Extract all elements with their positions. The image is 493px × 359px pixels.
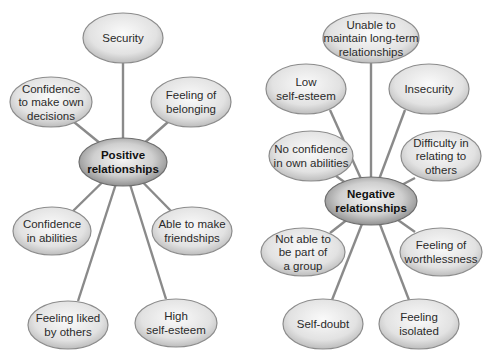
node-label-line: in abilities — [27, 232, 78, 244]
concept-node-high-self-esteem: Highself-esteem — [135, 299, 217, 347]
node-label-line: decisions — [27, 110, 75, 122]
concept-node-feeling-of-belonging: Feeling ofbelonging — [151, 77, 231, 127]
concept-node-confidence-in-abilities: Confidencein abilities — [13, 207, 91, 255]
node-label-line: relationships — [335, 202, 407, 214]
concept-node-feeling-liked-by-others: Feeling likedby others — [28, 301, 108, 349]
node-label-line: friendships — [164, 232, 220, 244]
node-label-line: Self-doubt — [297, 318, 350, 330]
node-label-line: by others — [44, 326, 92, 338]
node-label-line: Able to make — [158, 218, 225, 230]
concept-node-no-confidence-in-own-abilities: No confidencein own abilities — [269, 131, 353, 181]
concept-node-difficulty-in-relating-to-others: Difficulty inrelating toothers — [401, 131, 481, 181]
node-label-line: Feeling liked — [36, 312, 101, 324]
hub-negative-relationships: Negativerelationships — [325, 177, 417, 225]
node-label-line: in own abilities — [274, 157, 349, 169]
node-label-line: relating to — [416, 150, 467, 162]
node-label-line: self-esteem — [276, 90, 335, 102]
node-label-line: High — [164, 310, 188, 322]
node-label-line: worthlessness — [404, 253, 478, 265]
concept-node-not-able-to-be-part-of-a-group: Not able tobe part ofa group — [261, 228, 345, 276]
concept-node-unable-to-maintain-long-term-relationships: Unable tomaintain long-termrelationships — [323, 13, 419, 63]
node-label-line: Confidence — [23, 218, 81, 230]
hub-positive-relationships: Positiverelationships — [79, 138, 167, 186]
concept-node-able-to-make-friendships: Able to makefriendships — [152, 207, 232, 255]
node-label-line: Difficulty in — [413, 137, 468, 149]
node-label-line: Feeling — [400, 311, 438, 323]
node-label-line: self-esteem — [146, 324, 205, 336]
node-label-line: Low — [295, 76, 317, 88]
node-label-line: Positive — [101, 149, 145, 161]
node-label-line: Feeling of — [416, 239, 467, 251]
concept-node-security: Security — [83, 13, 163, 63]
hub-nodes: PositiverelationshipsNegativerelationshi… — [79, 138, 417, 225]
node-label-line: maintain long-term — [323, 32, 418, 44]
node-label-line: Negative — [347, 188, 395, 200]
node-label-line: to make own — [18, 96, 83, 108]
relationships-diagram: SecurityConfidenceto make owndecisionsFe… — [0, 0, 493, 359]
node-label-line: isolated — [399, 325, 439, 337]
node-label-line: belonging — [166, 103, 216, 115]
concept-node-confidence-to-make-own-decisions: Confidenceto make owndecisions — [10, 77, 92, 127]
node-label-line: Security — [102, 32, 144, 44]
node-label-line: Confidence — [22, 83, 80, 95]
node-label-line: others — [425, 164, 457, 176]
node-label-line: Not able to — [275, 233, 331, 245]
hub-ellipse — [79, 138, 167, 186]
node-label-line: a group — [283, 260, 322, 272]
concept-node-self-doubt: Self-doubt — [283, 299, 363, 349]
concept-node-low-self-esteem: Lowself-esteem — [266, 64, 346, 114]
node-label-line: Unable to — [346, 19, 395, 31]
node-label-line: Insecurity — [404, 83, 453, 95]
node-label-line: No confidence — [274, 143, 348, 155]
node-label-line: relationships — [339, 46, 404, 58]
node-label-line: Feeling of — [166, 89, 217, 101]
concept-node-feeling-isolated: Feelingisolated — [379, 299, 459, 349]
node-label-line: relationships — [87, 163, 159, 175]
concept-node-insecurity: Insecurity — [389, 64, 469, 114]
node-label-line: be part of — [279, 246, 328, 258]
hub-ellipse — [325, 177, 417, 225]
concept-node-feeling-of-worthlessness: Feeling ofworthlessness — [400, 228, 482, 276]
